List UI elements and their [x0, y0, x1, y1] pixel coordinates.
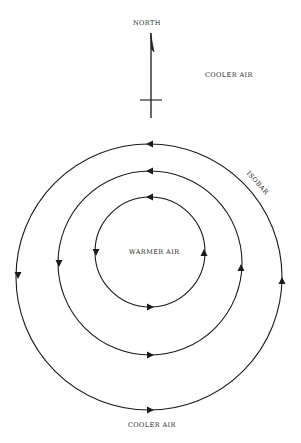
isobar-diagram	[0, 0, 301, 443]
warmer-air-label: WARMER AIR	[129, 248, 179, 256]
flow-arrow-icons	[15, 141, 286, 414]
north-label: NORTH	[133, 19, 161, 27]
north-arrow-icon	[140, 33, 162, 118]
top-cooler-air-label: COOLER AIR	[205, 71, 253, 79]
isobar-outer	[16, 144, 282, 410]
bottom-cooler-air-label: COOLER AIR	[128, 421, 176, 429]
